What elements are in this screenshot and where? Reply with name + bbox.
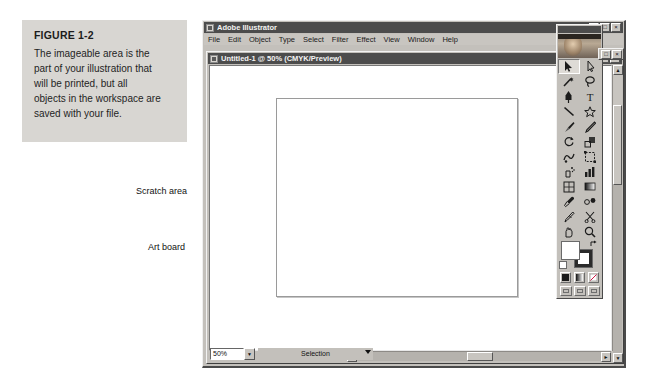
swap-fill-stroke-icon[interactable] [590, 240, 598, 248]
figure-caption-line: part of your illustration that [34, 61, 175, 76]
application-title: Adobe Illustrator [217, 23, 586, 32]
menu-item-window[interactable]: Window [408, 35, 435, 44]
document-icon[interactable] [210, 55, 218, 63]
menu-item-filter[interactable]: Filter [332, 35, 349, 44]
pencil-tool[interactable] [580, 119, 602, 134]
toolbox-banner-image [558, 34, 601, 58]
default-fill-stroke-icon[interactable] [559, 261, 567, 269]
direct-selection-tool[interactable] [580, 59, 602, 74]
symbol-sprayer-tool[interactable] [558, 164, 580, 179]
toolbox-tool-grid: T [558, 59, 601, 239]
menu-item-help[interactable]: Help [442, 35, 457, 44]
mesh-tool[interactable] [558, 179, 580, 194]
line-segment-tool[interactable] [558, 104, 580, 119]
color-controls [560, 241, 600, 269]
vertical-scroll-track[interactable] [613, 105, 622, 353]
status-chevron-down-icon[interactable] [365, 350, 371, 354]
scale-tool[interactable] [580, 134, 602, 149]
figure-caption-block: FIGURE 1-2 The imageable area is the par… [22, 20, 187, 142]
pen-tool[interactable] [558, 89, 580, 104]
menu-item-object[interactable]: Object [249, 35, 271, 44]
star-shape-tool[interactable] [580, 104, 602, 119]
fill-swatch[interactable] [561, 241, 580, 260]
slice-tool[interactable] [558, 209, 580, 224]
menu-item-type[interactable]: Type [279, 35, 295, 44]
warp-tool[interactable] [558, 149, 580, 164]
vertical-scroll-thumb[interactable] [613, 105, 622, 185]
menu-item-edit[interactable]: Edit [228, 35, 241, 44]
zoom-dropdown-icon[interactable]: ▼ [244, 348, 255, 360]
eyedropper-tool[interactable] [558, 194, 580, 209]
document-title: Untitled-1 @ 50% (CMYK/Preview) [221, 54, 585, 63]
blend-tool[interactable] [580, 194, 602, 209]
standard-screen-mode-button[interactable] [560, 286, 572, 296]
figure-caption-line: saved with your file. [34, 106, 175, 121]
canvas-area[interactable] [209, 65, 612, 351]
paint-mode-buttons [557, 272, 602, 283]
figure-caption-line: objects in the workspace are [34, 91, 175, 106]
type-tool[interactable]: T [580, 89, 602, 104]
callout-label-scratch-area: Scratch area [136, 186, 187, 196]
gradient-mode-button[interactable] [574, 272, 585, 283]
paintbrush-tool[interactable] [558, 119, 580, 134]
palette-close-button[interactable]: × [612, 50, 622, 59]
hand-tool[interactable] [558, 224, 580, 239]
menu-item-file[interactable]: File [208, 35, 220, 44]
zoom-level-input[interactable]: 50% [210, 348, 244, 360]
palette-maximize-button[interactable]: □ [601, 50, 611, 59]
free-transform-tool[interactable] [580, 149, 602, 164]
none-mode-button[interactable] [588, 272, 599, 283]
figure-caption-title: FIGURE 1-2 [34, 29, 175, 41]
status-bar: 50% ▼ Selection [210, 348, 620, 360]
menu-item-effect[interactable]: Effect [357, 35, 376, 44]
full-screen-with-menu-button[interactable] [574, 286, 586, 296]
menu-item-select[interactable]: Select [303, 35, 324, 44]
figure-caption-line: The imageable area is the [34, 46, 175, 61]
status-indicator-label: Selection [301, 350, 330, 357]
toolbox-title-bar[interactable] [558, 26, 601, 33]
artboard[interactable] [276, 98, 518, 297]
vertical-scrollbar[interactable]: ▲ ▼ [612, 65, 622, 351]
magic-wand-tool[interactable] [558, 74, 580, 89]
toolbox-palette: T [556, 24, 603, 299]
scroll-up-button[interactable]: ▲ [613, 65, 623, 75]
figure-caption-line: will be printed, but all [34, 76, 175, 91]
gradient-tool[interactable] [580, 179, 602, 194]
screen-mode-buttons [557, 286, 602, 296]
full-screen-mode-button[interactable] [588, 286, 600, 296]
scissors-tool[interactable] [580, 209, 602, 224]
status-indicator[interactable]: Selection [258, 348, 373, 360]
floating-palette[interactable]: □ × [598, 48, 624, 60]
svg-text:T: T [587, 91, 594, 102]
menu-item-view[interactable]: View [384, 35, 400, 44]
app-icon[interactable] [206, 24, 214, 32]
color-mode-button[interactable] [560, 272, 571, 283]
column-graph-tool[interactable] [580, 164, 602, 179]
callout-label-art-board: Art board [148, 242, 185, 252]
zoom-tool[interactable] [580, 224, 602, 239]
lasso-tool[interactable] [580, 74, 602, 89]
close-button[interactable]: × [611, 23, 621, 32]
selection-tool[interactable] [558, 59, 580, 74]
rotate-tool[interactable] [558, 134, 580, 149]
